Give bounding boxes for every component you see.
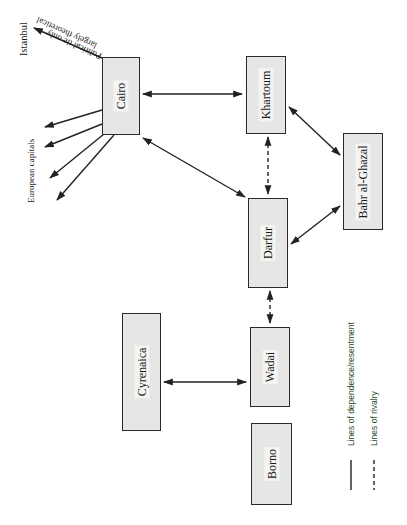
edge-cairo-europe-1 <box>45 110 102 127</box>
node-cyrenaica-label: Cyrenaica <box>134 346 149 399</box>
diagram-canvas <box>0 0 407 525</box>
node-borno: Borno <box>251 423 292 505</box>
label-istanbul-text: Istanbul <box>18 22 29 56</box>
legend-dashed-text: Lines of rivalry <box>369 391 379 446</box>
edge-darfur-bahr <box>291 206 340 244</box>
legend-solid-label: Lines of dependence/resentment <box>346 322 356 446</box>
node-darfur-label: Darfur <box>261 225 276 261</box>
node-bahr-al-ghazal-label: Bahr al-Ghazal <box>356 143 371 220</box>
legend-dashed-label: Lines of rivalry <box>369 391 379 446</box>
node-wadai: Wadai <box>250 327 290 407</box>
edge-cairo-europe-4 <box>57 135 114 200</box>
node-borno-label: Borno <box>264 447 279 481</box>
legend-solid-text: Lines of dependence/resentment <box>346 322 356 446</box>
node-khartoum: Khartoum <box>246 56 286 134</box>
node-cairo: Cairo <box>102 57 140 135</box>
node-cyrenaica: Cyrenaica <box>122 313 161 431</box>
label-european-capitals: European capitals <box>26 139 36 203</box>
label-istanbul: Istanbul <box>18 22 29 56</box>
node-bahr-al-ghazal: Bahr al-Ghazal <box>343 133 383 230</box>
edge-cairo-darfur <box>143 138 245 197</box>
edge-cairo-europe-2 <box>45 124 102 147</box>
edge-khartoum-bahr <box>289 107 340 155</box>
node-wadai-label: Wadai <box>263 350 278 384</box>
node-darfur: Darfur <box>248 198 288 288</box>
node-khartoum-label: Khartoum <box>259 69 274 122</box>
node-cairo-label: Cairo <box>114 81 129 112</box>
european-capitals-text: European capitals <box>26 139 36 203</box>
